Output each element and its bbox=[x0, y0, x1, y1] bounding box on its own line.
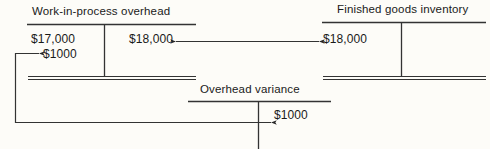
amount-wip-debit-variance: $1000 bbox=[43, 47, 77, 61]
account-title-finished-goods-inventory: Finished goods inventory bbox=[337, 3, 468, 15]
account-title-overhead-variance: Overhead variance bbox=[200, 83, 300, 95]
t-account-diagram: Work-in-process overhead Finished goods … bbox=[0, 0, 490, 149]
account-title-work-in-process-overhead: Work-in-process overhead bbox=[32, 5, 170, 17]
amount-finished-goods-debit-transfer-in: $18,000 bbox=[323, 32, 367, 46]
diagram-rules-and-connectors bbox=[0, 0, 490, 149]
amount-wip-debit-applied-overhead: $17,000 bbox=[31, 32, 75, 46]
amount-overhead-variance-credit: $1000 bbox=[274, 108, 308, 122]
t-account-overhead-variance bbox=[188, 102, 331, 150]
amount-wip-credit-transfer-out: $18,000 bbox=[129, 32, 173, 46]
